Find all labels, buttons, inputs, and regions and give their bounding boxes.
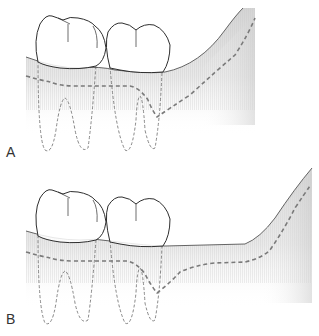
panel-a: A bbox=[0, 0, 319, 168]
panel-label-a: A bbox=[6, 144, 15, 160]
molar-crowns bbox=[36, 190, 170, 247]
tooth-gingiva-diagram-b bbox=[0, 168, 319, 336]
tooth-gingiva-diagram-a bbox=[0, 0, 319, 168]
panel-label-b: B bbox=[6, 311, 15, 327]
molar-crowns bbox=[36, 16, 170, 73]
panel-b: B bbox=[0, 168, 319, 336]
